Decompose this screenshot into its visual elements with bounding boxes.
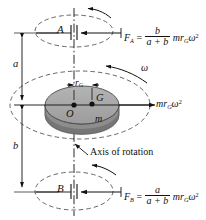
force-a-equation: FA = b a + b mrGω2 [124,26,199,48]
fa-m: m [173,32,180,43]
rotating-disk-diagram: A B O G m rG a b ω Axis of rotation mrGω… [0,0,206,220]
fb-exponent: 2 [195,191,198,198]
fa-tail: mrGω2 [173,32,199,43]
fb-m: m [173,191,180,202]
fb-equals: = [136,191,142,202]
inertia-force-label: mrGω2 [156,98,182,110]
mass-label: m [95,113,102,124]
bearing-b-orbit-ellipse [35,172,113,210]
fa-numerator: b [145,26,171,36]
omega-label: ω [141,62,148,73]
inertia-exponent: 2 [179,98,182,105]
inertia-omega: ω [172,98,179,109]
fa-denominator: a + b [145,36,171,48]
fa-equals: = [136,32,142,43]
fb-denominator: a + b [145,195,171,207]
dimension-a [14,33,59,100]
bearing-b-label: B [57,182,64,194]
rotation-arrow-bottom [92,165,116,175]
axis-label-leader [75,144,88,155]
fb-fraction: a a + b [145,185,171,207]
fb-subscript: B [130,196,134,203]
dimension-a-label: a [13,58,18,69]
center-point-g [89,101,94,106]
fa-fraction: b a + b [145,26,171,48]
rotor-disk [45,86,119,135]
force-b-equation: FB = a a + b mrGω2 [124,185,199,207]
bearing-a-label: A [57,23,64,35]
center-point-o [71,102,76,107]
rg-label: rG [75,78,83,88]
force-b-arrow [81,187,121,197]
fb-numerator: a [145,185,171,195]
fa-exponent: 2 [195,32,198,39]
dimension-b-label: b [13,140,18,151]
axis-of-rotation-label: Axis of rotation [90,146,153,157]
center-g-label: G [96,92,104,103]
fa-subscript: A [130,37,134,44]
center-o-label: O [66,108,74,119]
rg-subscript: G [79,82,83,88]
force-a-arrow [81,28,121,38]
fb-tail: mrGω2 [173,191,199,202]
